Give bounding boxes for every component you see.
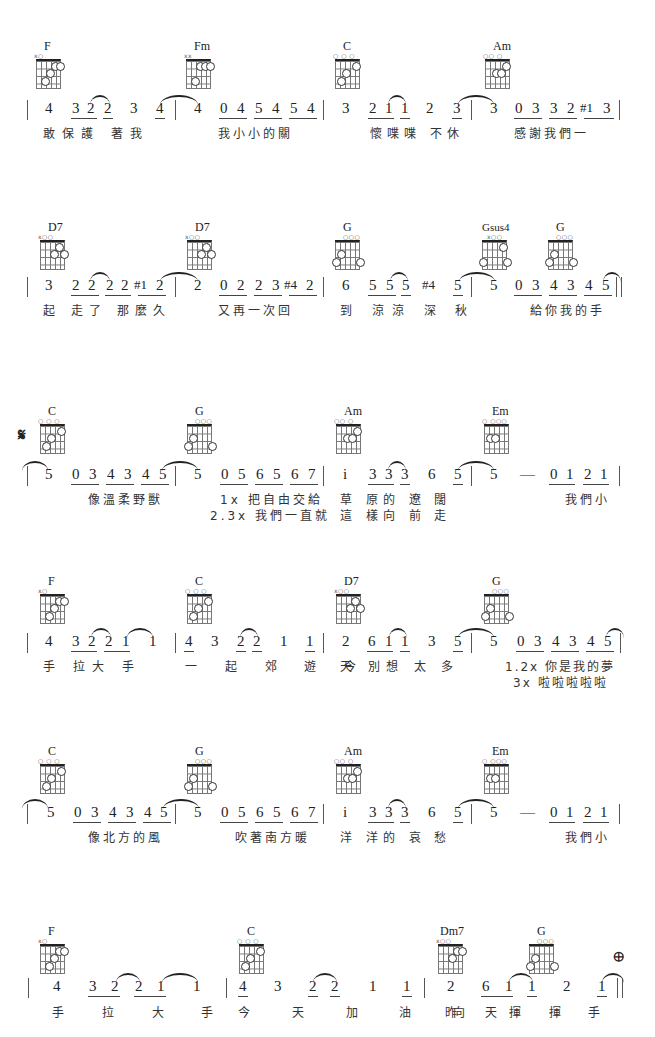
tie [116,973,140,983]
fretboard-grid [438,944,463,974]
note: 1 [369,978,377,995]
lyrics: 手 拉 大 手 [52,1003,230,1020]
bar-line [28,978,29,998]
finger-dot [550,962,559,971]
bar-line [226,978,227,998]
fretboard-grid [239,944,264,974]
finger-dot [256,947,265,956]
lyrics: 昨 天揮 揮 手 [445,1003,612,1020]
underline [330,996,340,997]
open-mute-marks: ○ ○ ○ [237,937,259,944]
tie [313,973,337,983]
open-mute-marks: ○○○ [537,937,554,944]
double-bar-line [617,978,623,998]
finger-dot [448,954,457,963]
note: 4 [239,978,247,995]
score-line-6: F x○ C ○ ○ ○ Dm7 x○○ G ○○○ [0,0,655,1037]
finger-dot [60,947,69,956]
note: 4 [53,978,61,995]
chord-name: C [247,925,255,937]
finger-dot [241,962,250,971]
chord-name: F [48,925,55,937]
underline [238,996,248,997]
tie [162,973,198,983]
note: 1 [403,978,411,995]
underline [527,996,537,997]
underline [402,996,412,997]
fretboard-grid [40,944,65,974]
underline [481,996,513,997]
note: 3 [274,978,282,995]
bar-line [424,978,425,998]
finger-dot [45,962,54,971]
underline [597,996,607,997]
underline [134,996,166,997]
note: 2 [563,978,571,995]
note: 2 [447,978,455,995]
underline [88,996,120,997]
chord-name: G [537,925,546,937]
note: 3 [89,978,97,995]
open-mute-marks: x○ [38,937,48,944]
fretboard-grid [529,944,554,974]
underline [308,996,318,997]
finger-dot [458,947,467,956]
chord-name: Dm7 [440,925,464,937]
finger-dot [526,962,535,971]
open-mute-marks: x○○ [436,937,452,944]
coda-sign: ⊕ [612,947,625,966]
note: 6 [482,978,490,995]
tie [509,973,533,983]
